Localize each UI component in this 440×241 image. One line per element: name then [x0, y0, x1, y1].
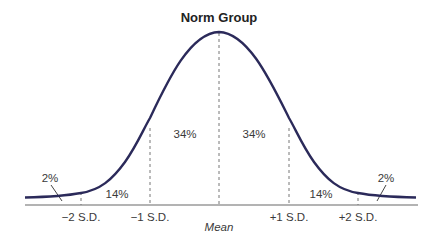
normal-curve [25, 32, 416, 198]
pct-left-14: 14% [105, 188, 128, 200]
chart-title: Norm Group [181, 10, 258, 25]
pct-right-34: 34% [242, 128, 265, 140]
tick-mean: Mean [205, 221, 234, 233]
pct-right-14: 14% [309, 188, 332, 200]
sd-guides [81, 33, 358, 205]
pct-right-tail: 2% [378, 172, 395, 184]
bell-curve-diagram: Norm Group 2% 14% 34% 34% 14% 2% −2 S.D.… [0, 0, 440, 241]
tick-plus2-sd: +2 S.D. [339, 211, 378, 223]
left-tail-pointer [51, 185, 62, 201]
tick-minus1-sd: −1 S.D. [131, 211, 170, 223]
right-tail-pointer [377, 185, 386, 201]
pct-left-34: 34% [173, 128, 196, 140]
tick-minus2-sd: −2 S.D. [62, 211, 101, 223]
tick-plus1-sd: +1 S.D. [270, 211, 309, 223]
pct-left-tail: 2% [42, 172, 59, 184]
